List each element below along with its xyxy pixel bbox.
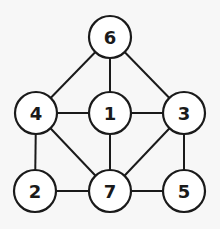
node-label: 1 [104, 103, 117, 124]
node-label: 2 [29, 181, 42, 202]
node-label: 6 [104, 27, 117, 48]
node-2: 2 [14, 170, 56, 212]
node-4: 4 [15, 92, 57, 134]
node-5: 5 [163, 170, 205, 212]
node-label: 5 [178, 181, 191, 202]
node-1: 1 [89, 92, 131, 134]
node-7: 7 [89, 170, 131, 212]
node-label: 4 [30, 103, 43, 124]
node-label: 3 [178, 103, 191, 124]
node-3: 3 [163, 92, 205, 134]
node-6: 6 [89, 16, 131, 58]
graph-diagram: 6413275 [0, 0, 220, 229]
node-label: 7 [104, 181, 117, 202]
